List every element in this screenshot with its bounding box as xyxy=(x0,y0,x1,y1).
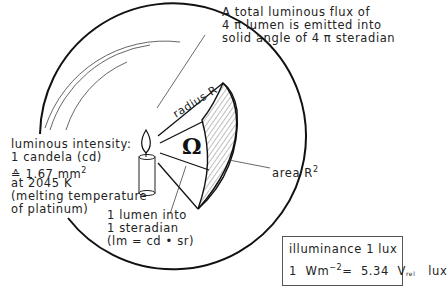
area-label-exponent: 2 xyxy=(313,165,319,174)
illuminance-box: illuminance 1 lux 1 Wm−2= 5.34 Vrel lux xyxy=(282,236,403,286)
ray-line xyxy=(158,163,198,209)
luminance-exponent: 2 xyxy=(81,166,87,175)
luminous-intensity-line2: 1 candela (cd) xyxy=(11,151,102,164)
illuminance-factor: = 5.34 V xyxy=(342,264,406,278)
sphere-highlight-arc xyxy=(66,62,127,130)
illuminance-line1: illuminance 1 lux xyxy=(289,242,397,256)
illuminance-subscript: rel xyxy=(406,270,416,277)
area-label-text: area R xyxy=(272,166,313,180)
candle-icon xyxy=(139,130,155,196)
pointer-line xyxy=(170,166,186,214)
illuminance-line2: 1 Wm−2= 5.34 Vrel lux xyxy=(289,263,447,278)
total-flux-note-line3: solid angle of 4 π steradian xyxy=(222,32,395,45)
sphere-highlight-arc xyxy=(45,41,180,128)
lumen-note-line3: (lm = cd • sr) xyxy=(107,235,194,248)
pointer-line xyxy=(229,160,270,168)
solid-angle-symbol: Ω xyxy=(182,133,202,159)
illuminance-unit: 1 Wm xyxy=(289,264,329,278)
area-label: area R2 xyxy=(272,163,319,180)
illuminance-lux-unit: lux xyxy=(415,264,447,278)
luminous-intensity-line6: of platinum) xyxy=(11,203,88,216)
illuminance-exponent: −2 xyxy=(329,263,342,272)
